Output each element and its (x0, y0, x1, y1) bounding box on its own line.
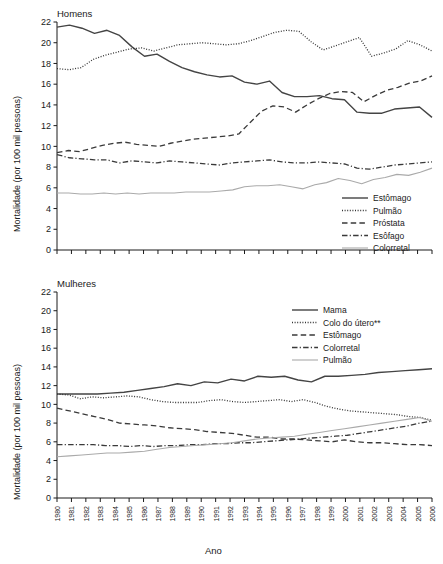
svg-text:1980: 1980 (54, 506, 61, 522)
svg-text:1995: 1995 (270, 506, 277, 522)
svg-text:1989: 1989 (184, 506, 191, 522)
svg-text:1984: 1984 (112, 506, 119, 522)
svg-text:1993: 1993 (242, 506, 249, 522)
svg-text:2006: 2006 (429, 506, 436, 522)
svg-text:16: 16 (41, 79, 51, 89)
svg-text:1986: 1986 (141, 506, 148, 522)
svg-text:0: 0 (46, 493, 51, 503)
svg-text:18: 18 (41, 59, 51, 69)
svg-text:4: 4 (46, 204, 51, 214)
svg-text:8: 8 (46, 162, 51, 172)
chart-panel-mulheres: Mulheres Mortalidade (por 100 mil pessoa… (0, 268, 443, 564)
svg-text:1990: 1990 (198, 506, 205, 522)
svg-text:4: 4 (46, 456, 51, 466)
svg-text:10: 10 (41, 142, 51, 152)
svg-text:1987: 1987 (155, 506, 162, 522)
svg-text:22: 22 (41, 17, 51, 27)
svg-text:20: 20 (41, 306, 51, 316)
svg-text:Estômago: Estômago (323, 330, 362, 340)
x-axis-label: Ano (205, 545, 222, 556)
svg-text:0: 0 (46, 245, 51, 255)
svg-text:16: 16 (41, 343, 51, 353)
svg-text:2004: 2004 (400, 506, 407, 522)
svg-text:1999: 1999 (328, 506, 335, 522)
svg-text:1988: 1988 (169, 506, 176, 522)
svg-text:22: 22 (41, 287, 51, 297)
svg-text:Mama: Mama (323, 305, 347, 315)
svg-text:1983: 1983 (97, 506, 104, 522)
svg-text:12: 12 (41, 381, 51, 391)
svg-text:18: 18 (41, 325, 51, 335)
figure-mortality-trends: Homens Mortalidade (por 100 mil pessoas)… (0, 0, 443, 564)
svg-text:8: 8 (46, 418, 51, 428)
svg-text:6: 6 (46, 183, 51, 193)
svg-text:1998: 1998 (314, 506, 321, 522)
svg-text:1982: 1982 (83, 506, 90, 522)
plot-area-homens: 0246810121416182022EstômagoPulmãoPróstat… (0, 0, 443, 282)
svg-text:1992: 1992 (227, 506, 234, 522)
plot-area-mulheres: 0246810121416182022198019811982198319841… (0, 268, 443, 564)
svg-text:1991: 1991 (213, 506, 220, 522)
svg-text:14: 14 (41, 100, 51, 110)
svg-text:1994: 1994 (256, 506, 263, 522)
svg-text:10: 10 (41, 400, 51, 410)
svg-text:2000: 2000 (342, 506, 349, 522)
svg-text:Colorretal: Colorretal (373, 243, 410, 253)
svg-text:2002: 2002 (371, 506, 378, 522)
svg-text:Pulmão: Pulmão (323, 355, 352, 365)
svg-text:6: 6 (46, 437, 51, 447)
svg-text:2: 2 (46, 224, 51, 234)
svg-text:Esôfago: Esôfago (373, 231, 404, 241)
svg-text:Colo do útero**: Colo do útero** (323, 318, 381, 328)
svg-text:2003: 2003 (386, 506, 393, 522)
svg-text:1996: 1996 (285, 506, 292, 522)
svg-text:Estômago: Estômago (373, 193, 412, 203)
svg-text:1981: 1981 (68, 506, 75, 522)
svg-text:Colorretal: Colorretal (323, 343, 360, 353)
svg-text:Pulmão: Pulmão (373, 206, 402, 216)
svg-text:20: 20 (41, 38, 51, 48)
svg-text:2: 2 (46, 474, 51, 484)
chart-panel-homens: Homens Mortalidade (por 100 mil pessoas)… (0, 0, 443, 282)
svg-text:12: 12 (41, 121, 51, 131)
svg-text:Próstata: Próstata (373, 218, 405, 228)
svg-text:1985: 1985 (126, 506, 133, 522)
svg-text:1997: 1997 (299, 506, 306, 522)
svg-text:2001: 2001 (357, 506, 364, 522)
svg-text:2005: 2005 (415, 506, 422, 522)
svg-text:14: 14 (41, 362, 51, 372)
